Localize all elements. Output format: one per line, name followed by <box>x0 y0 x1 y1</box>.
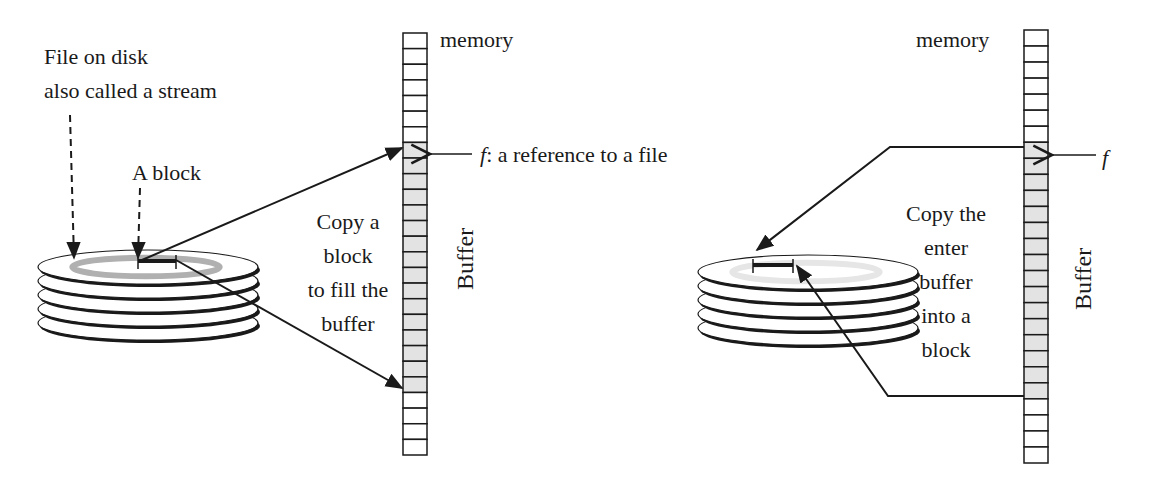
memory-cell <box>1024 126 1048 142</box>
buffer-cell <box>1024 174 1048 190</box>
buffer-cell <box>403 189 427 205</box>
memory-cell <box>403 408 427 424</box>
buffer-cell <box>1024 335 1048 351</box>
buffer-cell <box>1024 142 1048 158</box>
copy-line: Copy a <box>288 205 408 239</box>
buffer-cell <box>1024 319 1048 335</box>
memory-cell <box>403 96 427 112</box>
block-label: A block <box>132 160 201 186</box>
right-copy-description: Copy the enter buffer into a block <box>886 197 1006 367</box>
buffer-cell <box>1024 255 1048 271</box>
buffer-cell <box>403 361 427 377</box>
memory-cell <box>1024 399 1048 415</box>
diagram-canvas: File on disk also called a stream A bloc… <box>0 0 1155 488</box>
buffer-cell <box>403 158 427 174</box>
right-memory-label: memory <box>916 27 989 53</box>
buffer-cell <box>403 377 427 393</box>
buffer-cell <box>1024 190 1048 206</box>
file-dashed-pointer <box>70 115 74 258</box>
left-memory-label: memory <box>440 27 513 53</box>
file-on-disk-label: File on disk <box>44 44 148 70</box>
buffer-cell <box>1024 303 1048 319</box>
right-f-reference-label: f <box>1102 145 1108 171</box>
memory-cell <box>1024 431 1048 447</box>
stream-label: also called a stream <box>44 78 217 104</box>
memory-cell <box>403 33 427 49</box>
left-buffer-label: Buffer <box>452 228 478 290</box>
right-buffer-label: Buffer <box>1070 248 1096 310</box>
left-f-reference-label: f: a reference to a file <box>480 142 668 168</box>
buffer-cell <box>1024 238 1048 254</box>
memory-cell <box>403 49 427 65</box>
memory-cell <box>403 439 427 455</box>
memory-cell <box>1024 30 1048 46</box>
copy-line: Copy the <box>886 197 1006 231</box>
copy-line: block <box>886 333 1006 367</box>
left-disk-stack <box>38 250 260 343</box>
buffer-cell <box>1024 383 1048 399</box>
buffer-cell <box>1024 287 1048 303</box>
buffer-cell <box>403 174 427 190</box>
copy-line: to fill the <box>288 273 408 307</box>
copy-line: enter <box>886 231 1006 265</box>
memory-cell <box>1024 447 1048 463</box>
copy-line: into a <box>886 299 1006 333</box>
buffer-cell <box>1024 367 1048 383</box>
memory-cell <box>1024 110 1048 126</box>
memory-cell <box>1024 46 1048 62</box>
buffer-cell <box>403 142 427 158</box>
buffer-cell <box>1024 206 1048 222</box>
buffer-cell <box>1024 271 1048 287</box>
buffer-cell <box>1024 158 1048 174</box>
buffer-cell <box>1024 222 1048 238</box>
memory-cell <box>1024 78 1048 94</box>
memory-cell <box>403 64 427 80</box>
memory-cell <box>403 80 427 96</box>
copy-line: block <box>288 239 408 273</box>
copy-line: buffer <box>886 265 1006 299</box>
block-dashed-pointer <box>138 188 140 258</box>
reference-text: : a reference to a file <box>486 142 667 167</box>
buffer-cell <box>1024 351 1048 367</box>
memory-cell <box>403 111 427 127</box>
memory-cell <box>1024 94 1048 110</box>
memory-cell <box>1024 415 1048 431</box>
copy-line: buffer <box>288 307 408 341</box>
memory-cell <box>403 127 427 143</box>
memory-cell <box>403 424 427 440</box>
left-copy-description: Copy a block to fill the buffer <box>288 205 408 341</box>
right-memory-column <box>1024 30 1048 463</box>
memory-cell <box>1024 62 1048 78</box>
memory-cell <box>403 392 427 408</box>
buffer-cell <box>403 346 427 362</box>
